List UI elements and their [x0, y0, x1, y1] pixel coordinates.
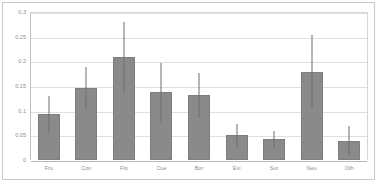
bar-group [293, 12, 331, 160]
y-axis-tick-label: 0.3 [0, 9, 26, 15]
x-axis-tick-label: Bor [180, 165, 218, 172]
y-axis-tick-label: 0.1 [0, 108, 26, 114]
bar-group [143, 12, 181, 160]
x-axis-tick-label: Fru [30, 165, 68, 172]
x-axis-tick-label: Evi [218, 165, 256, 172]
y-axis-tick-label: 0.25 [0, 34, 26, 40]
x-axis-tick-label: Sur [255, 165, 293, 172]
bar-group [30, 12, 68, 160]
y-axis-tick-label: 0.05 [0, 132, 26, 138]
gridline [31, 161, 367, 162]
bar-group [255, 12, 293, 160]
bar-group [180, 12, 218, 160]
error-bar [48, 96, 49, 133]
error-bar [311, 35, 312, 109]
error-bar [274, 131, 275, 148]
x-axis-tick-label: Flo [105, 165, 143, 172]
error-bar [236, 124, 237, 147]
bar-group [330, 12, 368, 160]
error-bar [198, 73, 199, 117]
x-axis-tick-label: Con [68, 165, 106, 172]
error-bar [349, 126, 350, 155]
error-bar [161, 63, 162, 123]
bar-group [218, 12, 256, 160]
bar-chart-figure: 0.30.250.20.150.10.050 FruConFloCueBorEv… [0, 0, 379, 185]
x-axis-tick-label: Neu [293, 165, 331, 172]
y-axis-tick-label: 0.2 [0, 58, 26, 64]
bar-group [105, 12, 143, 160]
x-axis-tick-label: Cue [143, 165, 181, 172]
y-axis-tick-label: 0.15 [0, 83, 26, 89]
bar-series [30, 12, 368, 160]
x-axis-tick-label: Oth [330, 165, 368, 172]
error-bar [86, 67, 87, 109]
error-bar [123, 22, 124, 93]
bar-group [68, 12, 106, 160]
y-axis-tick-label: 0 [0, 157, 26, 163]
